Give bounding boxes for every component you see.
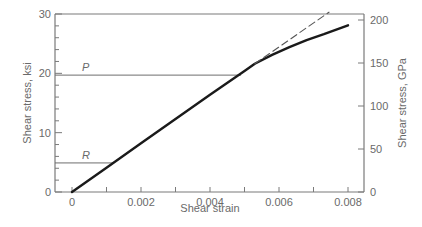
reference-lines-group: PR xyxy=(55,61,241,163)
y-tick-label: 0 xyxy=(45,186,51,198)
y-tick-label: 20 xyxy=(39,67,51,79)
reference-label-p: P xyxy=(82,61,90,73)
y-tick-label: 30 xyxy=(39,8,51,20)
series-stress-strain-curve xyxy=(72,25,348,192)
labels-group: Shear strain Shear stress, ksi Shear str… xyxy=(21,57,408,214)
x-axis-title: Shear strain xyxy=(180,202,239,214)
x-tick-label: 0.008 xyxy=(334,196,362,208)
y-axis-right-title: Shear stress, GPa xyxy=(396,57,408,148)
reference-label-r: R xyxy=(82,149,90,161)
y-right-tick-label: 150 xyxy=(370,57,388,69)
axes-group xyxy=(55,14,364,192)
x-tick-label: 0.006 xyxy=(265,196,293,208)
stress-strain-chart: 00.0020.0040.0060.0080102030050100150200… xyxy=(0,0,422,227)
x-tick-label: 0 xyxy=(69,196,75,208)
y-axis-left-title: Shear stress, ksi xyxy=(21,62,33,143)
y-right-tick-label: 0 xyxy=(370,186,376,198)
y-right-tick-label: 100 xyxy=(370,100,388,112)
series-linear-extrapolation xyxy=(255,12,329,64)
y-right-tick-label: 50 xyxy=(370,143,382,155)
x-tick-label: 0.002 xyxy=(127,196,155,208)
y-right-tick-label: 200 xyxy=(370,14,388,26)
y-tick-label: 10 xyxy=(39,127,51,139)
series-group xyxy=(72,12,348,192)
